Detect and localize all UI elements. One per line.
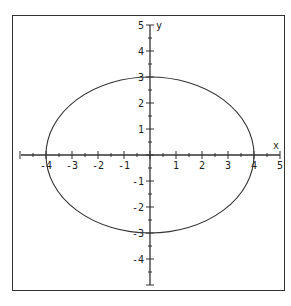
x-axis-label: x — [273, 140, 279, 151]
x-tick-label: 1 — [173, 160, 179, 171]
y-tick-label: 1 — [138, 124, 144, 135]
y-tick-label: 2 — [138, 98, 144, 109]
x-tick-label: 5 — [277, 160, 283, 171]
y-tick-label: -3 — [132, 228, 144, 239]
ellipse-plot: -4-3-2-11234554321-1-2-3-4xy — [0, 0, 291, 306]
x-tick-label: -2 — [92, 160, 104, 171]
y-tick-label: -2 — [132, 202, 144, 213]
x-tick-label: 2 — [199, 160, 205, 171]
y-tick-label: -4 — [132, 254, 144, 265]
x-tick-label: -3 — [66, 160, 78, 171]
y-axis-label: y — [156, 20, 162, 31]
y-tick-label: 4 — [138, 46, 144, 57]
y-tick-label: -1 — [132, 176, 144, 187]
x-tick-label: 3 — [225, 160, 231, 171]
x-tick-label: -1 — [118, 160, 130, 171]
y-tick-label: 5 — [138, 20, 144, 31]
